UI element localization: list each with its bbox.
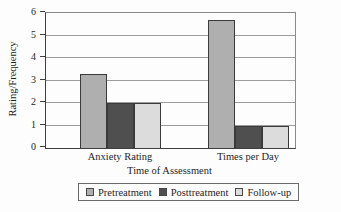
legend-item-pretreatment: Pretreatment <box>86 187 152 198</box>
y-tick-label-5: 5 <box>31 29 36 41</box>
y-tick-label-3: 3 <box>31 74 36 86</box>
bar-pretreatment-anxiety-rating <box>80 74 107 148</box>
gridline-y-5 <box>46 35 295 36</box>
y-axis: 0123456 <box>0 12 45 147</box>
legend-item-posttreatment: Posttreatment <box>159 187 229 198</box>
bar-pretreatment-times-per-day <box>208 20 235 148</box>
x-category-label-anxiety-rating: Anxiety Rating <box>65 151 175 162</box>
bar-chart-figure: Rating/Frequency 0123456 Anxiety Rating … <box>0 0 341 212</box>
x-axis-title: Time of Assessment <box>45 165 294 176</box>
legend-label-follow-up: Follow-up <box>247 187 291 198</box>
gridline-y-4 <box>46 57 295 58</box>
y-tick-label-6: 6 <box>31 6 36 18</box>
x-category-label-times-per-day: Times per Day <box>193 151 303 162</box>
legend-swatch-posttreatment <box>159 188 167 196</box>
bar-posttreatment-times-per-day <box>235 126 262 149</box>
y-tick-label-2: 2 <box>31 96 36 108</box>
legend-label-posttreatment: Posttreatment <box>171 187 229 198</box>
legend-swatch-follow-up <box>235 188 243 196</box>
bar-posttreatment-anxiety-rating <box>107 103 134 148</box>
legend-item-follow-up: Follow-up <box>235 187 291 198</box>
legend: Pretreatment Posttreatment Follow-up <box>78 183 299 201</box>
legend-label-pretreatment: Pretreatment <box>98 187 152 198</box>
legend-swatch-pretreatment <box>86 188 94 196</box>
y-tick-label-4: 4 <box>31 51 36 63</box>
plot-area <box>45 12 296 149</box>
y-tick-label-1: 1 <box>31 119 36 131</box>
bar-follow-up-anxiety-rating <box>134 103 161 148</box>
bar-follow-up-times-per-day <box>262 126 289 149</box>
y-tick-label-0: 0 <box>31 141 36 153</box>
